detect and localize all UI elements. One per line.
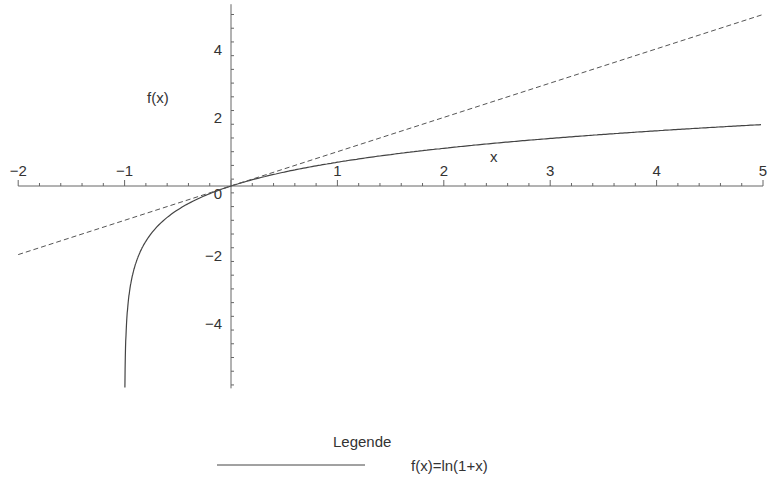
- x-tick-label: −1: [116, 162, 133, 179]
- x-axis-label: x: [490, 148, 498, 165]
- legend-title: Legende: [333, 433, 391, 450]
- y-tick-label: −4: [205, 315, 222, 332]
- x-tick-label: −2: [10, 162, 27, 179]
- x-tick-label: 1: [333, 162, 341, 179]
- x-tick-label: 2: [440, 162, 448, 179]
- x-tick-label: 3: [546, 162, 554, 179]
- y-tick-label: 4: [214, 41, 222, 58]
- y-tick-label: −2: [205, 247, 222, 264]
- legend-entry-label: f(x)=ln(1+x): [411, 457, 488, 474]
- series-identity-dashed: [18, 15, 763, 255]
- y-axis-label: f(x): [147, 89, 169, 106]
- plot-area: −2−1012345−4−224: [0, 0, 769, 477]
- x-tick-label: 4: [652, 162, 660, 179]
- y-tick-label: 2: [214, 109, 222, 126]
- x-tick-label: 0: [214, 185, 222, 202]
- x-tick-label: 5: [759, 162, 767, 179]
